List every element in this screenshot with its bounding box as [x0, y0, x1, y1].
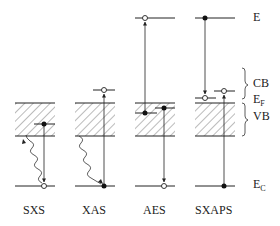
- photon-wave: [79, 136, 101, 184]
- label-cb: CB: [253, 76, 269, 91]
- valence-band-hatch: [195, 103, 235, 136]
- electron-dot: [42, 122, 47, 127]
- sxaps-column: [195, 16, 235, 189]
- electron-dot: [162, 106, 167, 111]
- valence-band-hatch: [75, 103, 115, 136]
- hole-circle: [102, 88, 107, 93]
- valence-band-hatch: [15, 103, 55, 136]
- column-label-xas: XAS: [82, 203, 106, 218]
- sxs-column: [15, 103, 55, 189]
- xas-column: [75, 88, 115, 189]
- label-ef: EF: [253, 92, 265, 108]
- aes-column: [135, 16, 175, 189]
- photon-arrowhead: [22, 139, 26, 144]
- photon-wave: [26, 135, 42, 183]
- hole-circle: [143, 16, 148, 21]
- electron-dot: [222, 184, 227, 189]
- electron-dot: [143, 111, 148, 116]
- hole-circle: [203, 96, 208, 101]
- cb-brace: [242, 68, 248, 99]
- electron-dot: [102, 184, 107, 189]
- energy-level-diagram: [0, 0, 280, 226]
- column-label-aes: AES: [143, 203, 166, 218]
- column-label-sxaps: SXAPS: [195, 203, 232, 218]
- hole-circle: [162, 184, 167, 189]
- label-ec: EC: [253, 177, 266, 193]
- label-vb: VB: [253, 109, 270, 124]
- label-e: E: [253, 10, 260, 25]
- hole-circle: [222, 89, 227, 94]
- vb-brace: [242, 103, 248, 136]
- column-label-sxs: SXS: [23, 203, 45, 218]
- electron-dot: [203, 16, 208, 21]
- hole-circle: [42, 184, 47, 189]
